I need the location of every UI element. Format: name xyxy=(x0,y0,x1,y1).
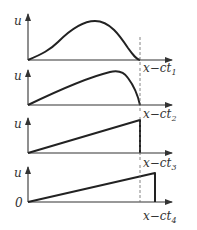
x-axis-label: x−ct1 xyxy=(143,61,176,77)
wave-profile-curve xyxy=(28,71,140,105)
x-axis-label: x−ct2 xyxy=(143,107,176,123)
x-axis-label: x−ct3 xyxy=(143,156,176,172)
wave-profile-curve xyxy=(28,21,140,60)
y-axis-label: u xyxy=(14,166,22,180)
x-axis-label: x−ct4 xyxy=(143,209,176,225)
panel-2: u x−ct2 xyxy=(14,68,176,123)
origin-label: 0 xyxy=(15,196,23,210)
y-axis-label: u xyxy=(14,69,22,83)
wave-profile-curve xyxy=(28,173,155,202)
panel-4: u 0 x−ct4 xyxy=(14,165,176,225)
panel-3: u x−ct3 xyxy=(14,117,176,172)
y-axis-label: u xyxy=(14,117,22,131)
wave-profile-curve xyxy=(28,120,140,153)
panel-1: u x−ct1 xyxy=(14,14,176,77)
wave-steepening-diagram: u x−ct1 u x−ct2 u x−ct3 u 0 x−ct4 xyxy=(0,0,197,230)
y-axis-label: u xyxy=(14,14,22,28)
